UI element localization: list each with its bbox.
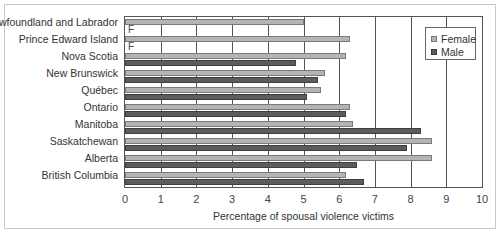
category-label: Manitoba [75, 118, 118, 130]
x-tick-label: 5 [300, 193, 306, 205]
x-tick-label: 0 [122, 193, 128, 205]
legend-item-male: Male [431, 46, 464, 58]
x-axis-label: Percentage of spousal violence victims [124, 210, 483, 222]
bar-male [125, 111, 346, 117]
bar-male [125, 179, 364, 185]
bar-female [125, 53, 346, 59]
bar-male [125, 60, 296, 66]
category-label: Ontario [84, 101, 118, 113]
bar-female [125, 70, 325, 76]
category-label: Saskatchewan [50, 135, 118, 147]
suppressed-value-marker: F [128, 42, 134, 52]
bar-female [125, 36, 350, 42]
legend-item-female: Female [431, 33, 476, 45]
x-tick-label: 8 [408, 193, 414, 205]
x-tick-label: 7 [372, 193, 378, 205]
x-tick-label: 2 [193, 193, 199, 205]
bar-female [125, 87, 321, 93]
gridline [375, 17, 376, 187]
bar-female [125, 104, 350, 110]
bar-female [125, 138, 432, 144]
legend: Female Male [425, 27, 476, 60]
suppressed-value-marker: F [128, 25, 134, 35]
x-tick-label: 4 [265, 193, 271, 205]
bar-female [125, 172, 346, 178]
category-label: Prince Edward Island [19, 33, 118, 45]
male-swatch-icon [431, 49, 437, 55]
bar-male [125, 145, 407, 151]
bar-female [125, 121, 353, 127]
female-swatch-icon [431, 36, 437, 42]
x-tick-label: 1 [158, 193, 164, 205]
category-label: New Brunswick [46, 67, 118, 79]
x-tick-label: 3 [229, 193, 235, 205]
bar-male [125, 162, 357, 168]
bar-male [125, 77, 318, 83]
x-tick-label: 6 [336, 193, 342, 205]
category-label: British Columbia [42, 169, 118, 181]
x-tick-label: 9 [443, 193, 449, 205]
x-tick-label: 10 [476, 193, 488, 205]
bar-female [125, 155, 432, 161]
legend-label-female: Female [441, 33, 476, 45]
category-label: Nova Scotia [61, 50, 118, 62]
bar-male [125, 128, 421, 134]
category-label: Newfoundland and Labrador [0, 16, 118, 28]
bar-female [125, 19, 304, 25]
legend-label-male: Male [441, 46, 464, 58]
category-label: Québec [81, 84, 118, 96]
bar-male [125, 94, 307, 100]
category-label: Alberta [85, 152, 118, 164]
gridline [411, 17, 412, 187]
